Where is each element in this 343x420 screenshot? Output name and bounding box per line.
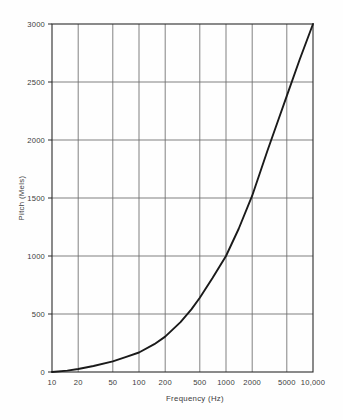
y-axis-tick-label: 0 xyxy=(41,368,45,377)
y-axis-tick-label: 1000 xyxy=(27,252,45,261)
chart-figure: 10205010020050010002000500010,000 050010… xyxy=(0,0,343,420)
x-axis-tick-label: 1000 xyxy=(217,378,235,387)
y-axis-tick-label: 2000 xyxy=(27,136,45,145)
mel-scale-line-chart: 10205010020050010002000500010,000 050010… xyxy=(0,0,343,420)
x-axis-tick-label: 10,000 xyxy=(301,378,325,387)
x-axis-tick-label: 5000 xyxy=(278,378,296,387)
x-axis-tick-label: 2000 xyxy=(243,378,261,387)
x-axis-tick-label: 50 xyxy=(108,378,117,387)
y-axis-tick-label: 500 xyxy=(32,310,45,319)
x-axis-tick-label: 10 xyxy=(48,378,57,387)
x-axis-title: Frequency (Hz) xyxy=(166,394,224,403)
x-axis-tick-label: 100 xyxy=(132,378,145,387)
x-axis-tick-label: 500 xyxy=(193,378,206,387)
y-axis-tick-label: 2500 xyxy=(27,78,45,87)
x-axis-tick-label: 200 xyxy=(159,378,172,387)
x-axis-tick-label: 20 xyxy=(74,378,83,387)
y-axis-tick-label: 1500 xyxy=(27,194,45,203)
y-axis-title: Pitch (Mels) xyxy=(17,176,26,221)
y-axis-tick-label: 3000 xyxy=(27,20,45,29)
